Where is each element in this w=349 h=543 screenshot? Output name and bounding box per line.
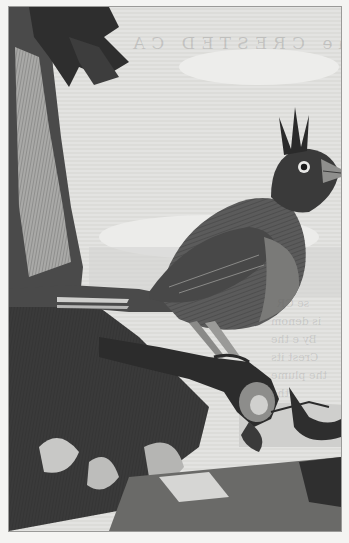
engraving-illustration — [9, 7, 341, 531]
cloud — [179, 49, 339, 85]
engraving-plate: The CRESTED CA se CR is denom By e the C… — [8, 6, 342, 532]
